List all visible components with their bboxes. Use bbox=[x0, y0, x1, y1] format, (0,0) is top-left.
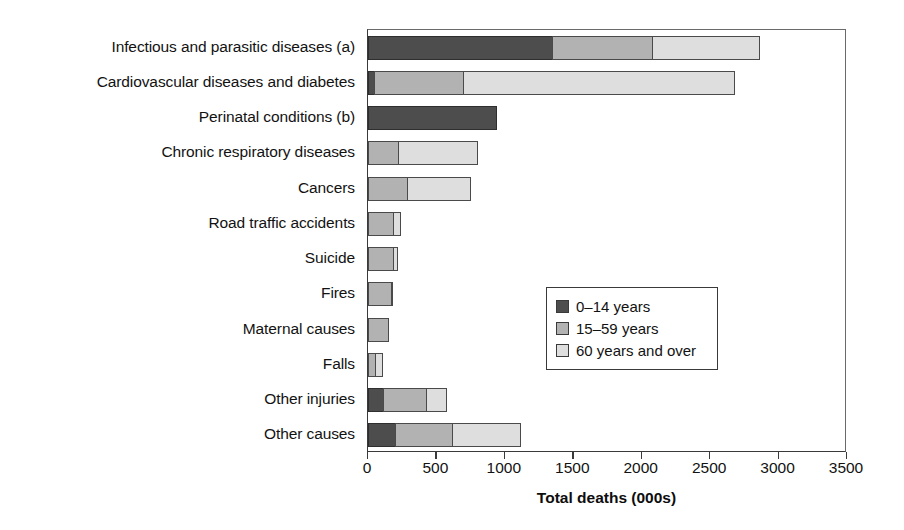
category-label: Falls bbox=[0, 356, 362, 372]
x-axis-tick bbox=[846, 452, 847, 459]
x-axis-tick bbox=[435, 452, 436, 459]
category-label: Road traffic accidents bbox=[0, 215, 362, 231]
legend-swatch-icon bbox=[556, 300, 569, 313]
category-label: Suicide bbox=[0, 250, 362, 266]
bar-row bbox=[368, 282, 393, 306]
category-label: Fires bbox=[0, 285, 362, 301]
bar-segment bbox=[393, 247, 398, 271]
bar-segment bbox=[368, 106, 497, 130]
bar-segment bbox=[368, 282, 392, 306]
bar-row bbox=[368, 177, 471, 201]
bar-segment bbox=[368, 423, 396, 447]
x-axis-tick bbox=[709, 452, 710, 459]
x-axis: 0500100015002000250030003500 bbox=[367, 452, 846, 482]
bar-segment bbox=[383, 388, 427, 412]
bar-segment bbox=[395, 423, 453, 447]
legend-swatch-icon bbox=[556, 322, 569, 335]
category-label: Maternal causes bbox=[0, 321, 362, 337]
category-label: Cardiovascular diseases and diabetes bbox=[0, 74, 362, 90]
bar-row bbox=[368, 318, 389, 342]
x-axis-tick bbox=[572, 452, 573, 459]
bar-segment bbox=[452, 423, 521, 447]
bar-row bbox=[368, 388, 447, 412]
legend-item: 0–14 years bbox=[556, 295, 708, 317]
x-axis-tick-label: 1000 bbox=[487, 460, 521, 476]
plot-area bbox=[367, 29, 846, 452]
x-axis-tick-label: 3000 bbox=[760, 460, 794, 476]
bar-segment bbox=[407, 177, 471, 201]
x-axis-tick bbox=[504, 452, 505, 459]
category-label: Cancers bbox=[0, 180, 362, 196]
x-axis-tick bbox=[778, 452, 779, 459]
legend-label: 15–59 years bbox=[576, 321, 659, 336]
x-axis-tick-label: 1500 bbox=[555, 460, 589, 476]
bar-segment bbox=[393, 212, 401, 236]
chart-legend: 0–14 years15–59 years60 years and over bbox=[546, 287, 718, 370]
category-label: Infectious and parasitic diseases (a) bbox=[0, 39, 362, 55]
bar-segment bbox=[368, 388, 384, 412]
x-axis-tick-label: 3500 bbox=[829, 460, 863, 476]
bar-segment bbox=[368, 212, 394, 236]
bar-row bbox=[368, 353, 383, 377]
x-axis-tick-label: 500 bbox=[422, 460, 448, 476]
x-axis-tick bbox=[641, 452, 642, 459]
bar-row bbox=[368, 106, 497, 130]
bar-row bbox=[368, 423, 521, 447]
category-axis: Infectious and parasitic diseases (a)Car… bbox=[0, 29, 362, 452]
bar-segment bbox=[398, 141, 477, 165]
x-axis-tick-label: 0 bbox=[363, 460, 372, 476]
category-label: Other causes bbox=[0, 426, 362, 442]
bar-segment bbox=[374, 71, 464, 95]
legend-item: 60 years and over bbox=[556, 339, 708, 361]
legend-label: 60 years and over bbox=[576, 343, 696, 358]
bar-segment bbox=[463, 71, 735, 95]
bar-segment bbox=[391, 282, 393, 306]
x-axis-title: Total deaths (000s) bbox=[367, 489, 846, 507]
bar-segment bbox=[368, 318, 389, 342]
x-axis-tick bbox=[367, 452, 368, 459]
bar-row bbox=[368, 212, 401, 236]
category-label: Chronic respiratory diseases bbox=[0, 144, 362, 160]
bar-row bbox=[368, 71, 735, 95]
bar-segment bbox=[368, 247, 394, 271]
category-label: Perinatal conditions (b) bbox=[0, 109, 362, 125]
x-axis-tick-label: 2000 bbox=[623, 460, 657, 476]
bar-segment bbox=[368, 177, 408, 201]
legend-swatch-icon bbox=[556, 344, 569, 357]
legend-label: 0–14 years bbox=[576, 299, 650, 314]
bar-segment bbox=[368, 141, 399, 165]
legend-item: 15–59 years bbox=[556, 317, 708, 339]
bar-row bbox=[368, 36, 760, 60]
bar-segment bbox=[368, 36, 553, 60]
bar-segment bbox=[375, 353, 383, 377]
bar-segment bbox=[426, 388, 447, 412]
stacked-bar-chart: Infectious and parasitic diseases (a)Car… bbox=[0, 0, 904, 530]
bar-row bbox=[368, 247, 398, 271]
category-label: Other injuries bbox=[0, 391, 362, 407]
bar-segment bbox=[552, 36, 653, 60]
bar-row bbox=[368, 141, 478, 165]
bar-segment bbox=[652, 36, 760, 60]
x-axis-tick-label: 2500 bbox=[692, 460, 726, 476]
